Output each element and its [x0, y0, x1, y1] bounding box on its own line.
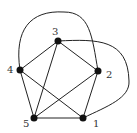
node-label-4: 4: [7, 64, 13, 75]
node-label-3: 3: [52, 26, 58, 37]
edge-3-5: [34, 41, 58, 118]
edge-2-3: [58, 41, 98, 71]
node-5: [31, 115, 38, 122]
edge-3-1: [58, 40, 129, 118]
node-4: [17, 67, 24, 74]
node-label-5: 5: [23, 118, 29, 129]
node-1: [80, 115, 87, 122]
edge-1-4: [20, 70, 83, 118]
nodes: [17, 38, 102, 122]
node-2: [95, 68, 102, 75]
edge-2-5: [34, 71, 98, 118]
edge-3-4: [20, 41, 58, 70]
node-label-2: 2: [106, 69, 112, 80]
node-label-1: 1: [93, 118, 99, 129]
edge-1-2: [83, 71, 98, 118]
graph-diagram: 12345: [0, 0, 137, 133]
edge-4-5: [20, 70, 34, 118]
node-3: [55, 38, 62, 45]
edges: [19, 12, 129, 118]
